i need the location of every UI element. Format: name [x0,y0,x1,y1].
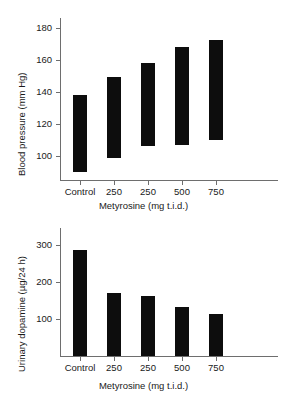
x-tick-mark [182,357,183,361]
x-tick-label: 500 [174,187,190,197]
x-tick-mark [80,357,81,361]
y-tick-label: 100 [22,314,52,324]
bar-blood-pressure-0 [73,95,87,172]
bar-blood-pressure-3 [175,47,189,145]
x-tick-mark [114,357,115,361]
x-axis-line-blood-pressure [60,180,278,181]
y-tick-mark [56,124,60,125]
x-tick-mark [114,181,115,185]
bar-urinary-dopamine-4 [209,314,223,356]
bar-urinary-dopamine-1 [107,293,121,356]
x-tick-label: 250 [140,187,156,197]
x-tick-label: 750 [208,363,224,373]
y-tick-label: 200 [22,277,52,287]
x-tick-label: 250 [106,363,122,373]
bar-urinary-dopamine-3 [175,307,189,356]
y-tick-label: 180 [22,23,52,33]
x-tick-label: Control [65,187,96,197]
y-tick-label: 300 [22,240,52,250]
y-tick-mark [56,245,60,246]
x-tick-label: Control [65,363,96,373]
y-axis-line-urinary-dopamine [60,228,61,356]
bar-blood-pressure-4 [209,40,223,139]
figure-metyrosine-response: Blood pressure (mm Hg) 100120140160180 C… [0,0,287,394]
x-tick-mark [216,181,217,185]
bar-blood-pressure-1 [107,77,121,157]
y-tick-label: 160 [22,55,52,65]
y-tick-mark [56,60,60,61]
y-tick-mark [56,319,60,320]
x-tick-label: 500 [174,363,190,373]
plot-area-urinary-dopamine: 100200300 Control250250500750 [60,228,220,356]
x-tick-mark [148,181,149,185]
y-tick-label: 120 [22,119,52,129]
y-tick-label: 140 [22,87,52,97]
bar-urinary-dopamine-2 [141,296,155,356]
x-tick-mark [148,357,149,361]
y-tick-label: 100 [22,151,52,161]
bar-blood-pressure-2 [141,63,155,146]
x-tick-mark [182,181,183,185]
chart-panel-blood-pressure: Blood pressure (mm Hg) 100120140160180 C… [0,0,287,212]
x-tick-label: 250 [106,187,122,197]
x-tick-mark [216,357,217,361]
y-tick-mark [56,156,60,157]
x-tick-mark [80,181,81,185]
plot-area-blood-pressure: 100120140160180 Control250250500750 [60,18,220,180]
y-axis-line-blood-pressure [60,18,61,180]
chart-panel-urinary-dopamine: Urinary dopamine (µg/24 h) 100200300 Con… [0,212,287,394]
x-axis-title-blood-pressure: Metyrosine (mg t.i.d.) [0,200,287,211]
x-axis-line-urinary-dopamine [60,356,278,357]
bar-urinary-dopamine-0 [73,250,87,356]
x-tick-label: 250 [140,363,156,373]
x-tick-label: 750 [208,187,224,197]
x-axis-title-urinary-dopamine: Metyrosine (mg t.i.d.) [0,380,287,391]
y-tick-mark [56,92,60,93]
y-tick-mark [56,28,60,29]
y-tick-mark [56,282,60,283]
